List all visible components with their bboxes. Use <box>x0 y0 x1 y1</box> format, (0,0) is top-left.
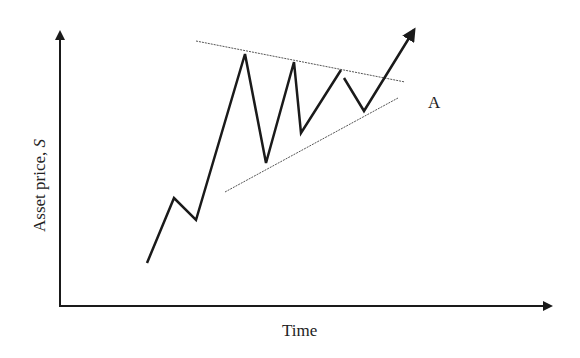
y-axis-label-text: Asset price, <box>30 147 49 232</box>
upper-trendline <box>196 41 405 82</box>
price-path <box>147 54 341 263</box>
triangle-pattern-diagram: A Time Asset price, S <box>0 0 580 358</box>
x-axis-label: Time <box>282 321 317 340</box>
price-breakout-path <box>344 30 414 111</box>
y-axis-label: Asset price, S <box>30 138 49 232</box>
y-axis-label-var: S <box>30 138 49 147</box>
lower-trendline <box>225 98 398 192</box>
point-label-a: A <box>428 93 441 112</box>
